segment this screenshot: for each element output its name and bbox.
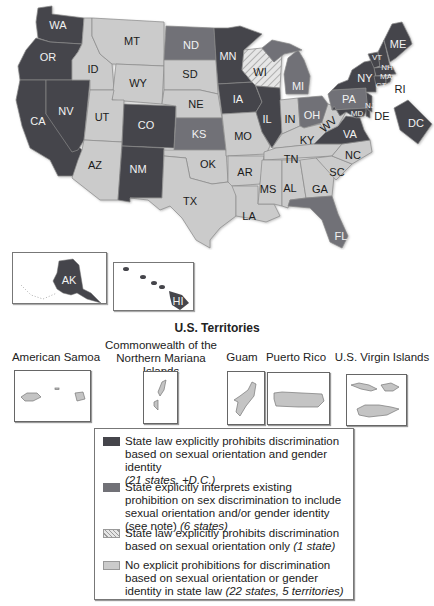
label-NM: NM xyxy=(129,163,146,175)
label-NE: NE xyxy=(188,98,203,110)
label-SD: SD xyxy=(182,68,197,80)
territory-name-line1: Commonwealth of the xyxy=(105,339,217,351)
label-WA: WA xyxy=(49,19,67,31)
label-KS: KS xyxy=(192,128,207,140)
label-UT: UT xyxy=(95,111,110,123)
label-IL: IL xyxy=(262,113,271,125)
american-samoa-shape xyxy=(15,371,90,421)
territory-name-american-samoa: American Samoa xyxy=(6,351,106,364)
label-WI: WI xyxy=(253,66,266,78)
label-SC: SC xyxy=(329,166,344,178)
label-NY: NY xyxy=(357,72,373,84)
hawaii-shape: HI xyxy=(114,263,193,310)
label-CO: CO xyxy=(138,119,155,131)
label-AL: AL xyxy=(283,182,296,194)
territories-title: U.S. Territories xyxy=(0,321,434,335)
legend-text: State explicitly interprets existing pro… xyxy=(125,481,341,532)
label-MA: MA xyxy=(380,72,393,81)
label-MD: MD xyxy=(351,109,364,118)
label-DC: DC xyxy=(408,117,424,129)
label-ME: ME xyxy=(390,38,407,50)
legend-text: State law explicitly prohibits discrimin… xyxy=(125,435,339,473)
label-ID: ID xyxy=(88,63,99,75)
legend-item-explicit-both: State law explicitly prohibits discrimin… xyxy=(103,435,348,487)
label-WY: WY xyxy=(129,77,147,89)
label-VA: VA xyxy=(343,128,358,140)
legend: State law explicitly prohibits discrimin… xyxy=(94,428,354,600)
label-MS: MS xyxy=(260,183,277,195)
alaska-shape: AK xyxy=(13,253,106,303)
label-CT: CT xyxy=(376,81,387,90)
label-FL: FL xyxy=(335,230,348,242)
label-AR: AR xyxy=(237,166,252,178)
label-PA: PA xyxy=(342,93,357,105)
legend-swatch-medium xyxy=(103,483,120,492)
label-HI: HI xyxy=(173,295,184,307)
puerto-rico-shape xyxy=(268,373,329,424)
legend-swatch-hatched xyxy=(103,529,120,538)
label-DE: DE xyxy=(374,110,389,122)
label-MT: MT xyxy=(124,35,140,47)
legend-item-no-protections: No explicit prohibitions for discriminat… xyxy=(103,559,348,598)
label-TX: TX xyxy=(183,195,198,207)
label-OR: OR xyxy=(40,51,57,63)
label-GA: GA xyxy=(312,183,329,195)
territory-american-samoa xyxy=(14,370,91,422)
label-OK: OK xyxy=(200,158,217,170)
legend-item-orientation-only: State law explicitly prohibits discrimin… xyxy=(103,527,348,553)
label-RI: RI xyxy=(395,83,406,95)
label-MN: MN xyxy=(219,50,236,62)
us-map: WA OR CA NV ID MT WY UT AZ CO NM ND SD N… xyxy=(0,0,434,250)
label-NJ: NJ xyxy=(365,101,375,110)
label-ND: ND xyxy=(183,39,199,51)
label-IA: IA xyxy=(233,93,244,105)
territory-guam xyxy=(227,371,265,425)
northern-mariana-shape xyxy=(144,372,177,423)
label-AK: AK xyxy=(62,274,77,286)
territory-name-puerto-rico: Puerto Rico xyxy=(265,351,327,364)
territory-name-guam: Guam xyxy=(222,351,262,364)
legend-item-interprets-sex: State explicitly interprets existing pro… xyxy=(103,481,348,533)
label-MO: MO xyxy=(234,130,252,142)
guam-shape xyxy=(228,372,264,424)
label-TN: TN xyxy=(284,153,299,165)
hawaii-inset: HI xyxy=(113,262,194,311)
label-IN: IN xyxy=(285,113,296,125)
legend-note: (22 states, 5 territories) xyxy=(225,585,343,597)
label-NC: NC xyxy=(345,149,361,161)
territory-name-us-virgin-islands: U.S. Virgin Islands xyxy=(331,351,433,364)
label-NH: NH xyxy=(381,63,393,72)
label-AZ: AZ xyxy=(88,159,102,171)
label-OH: OH xyxy=(304,109,321,121)
us-virgin-islands-shape xyxy=(347,375,406,425)
alaska-inset: AK xyxy=(12,252,107,304)
territory-puerto-rico xyxy=(267,372,330,425)
territory-northern-mariana xyxy=(143,371,178,424)
label-VT: VT xyxy=(372,53,382,62)
label-MI: MI xyxy=(292,80,304,92)
legend-swatch-dark xyxy=(103,437,120,446)
legend-swatch-light xyxy=(103,561,120,570)
label-CA: CA xyxy=(30,115,46,127)
label-KY: KY xyxy=(300,134,315,146)
territory-us-virgin-islands xyxy=(346,374,407,426)
legend-note: (1 state) xyxy=(293,540,335,552)
label-NV: NV xyxy=(58,105,74,117)
label-LA: LA xyxy=(242,210,256,222)
